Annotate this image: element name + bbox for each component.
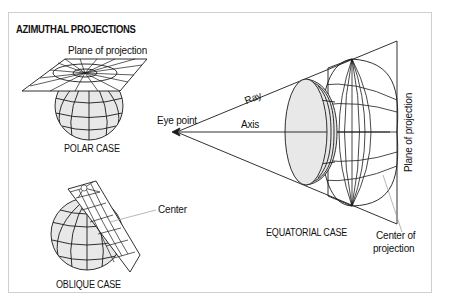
equatorial-plane-label: Plane of projection (403, 93, 414, 172)
polar-case-label: POLAR CASE (64, 143, 120, 154)
axis-label: Axis (241, 119, 259, 130)
equatorial-case-label: EQUATORIAL CASE (266, 227, 347, 238)
oblique-case-illustration (51, 181, 156, 272)
eye-point-label: Eye point (157, 115, 197, 126)
equatorial-case-illustration (172, 41, 402, 232)
page-title: AZIMUTHAL PROJECTIONS (16, 24, 136, 35)
center-of-projection-label-line2: projection (373, 243, 414, 254)
polar-case-illustration (22, 59, 147, 140)
equatorial-globe (285, 79, 337, 185)
eye-point-icon (172, 128, 180, 136)
polar-projection-plane (22, 59, 147, 91)
oblique-case-label: OBLIQUE CASE (56, 279, 121, 290)
polar-plane-label: Plane of projection (68, 45, 147, 56)
oblique-center-label: Center (158, 204, 187, 215)
center-of-projection-label-line1: Center of (376, 230, 415, 241)
